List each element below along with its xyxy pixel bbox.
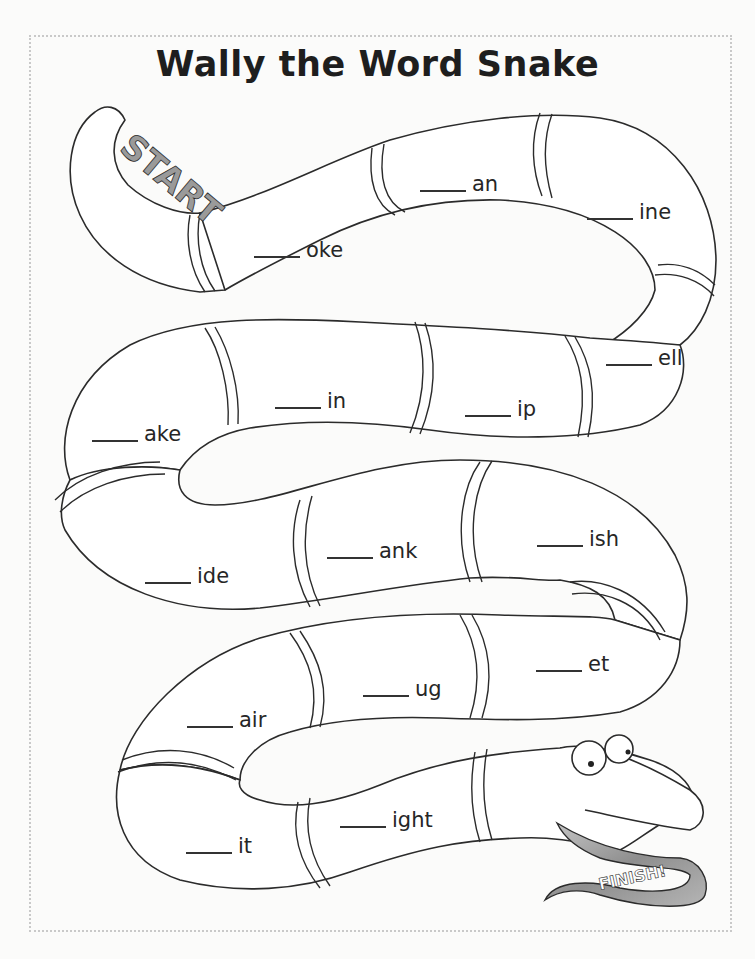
word-blank-an[interactable]: an xyxy=(420,172,498,196)
word-blank-ell[interactable]: ell xyxy=(606,346,683,370)
word-ending: air xyxy=(239,708,266,732)
word-blank-ug[interactable]: ug xyxy=(363,677,442,701)
blank-line[interactable] xyxy=(340,826,386,828)
blank-line[interactable] xyxy=(92,440,138,442)
word-ending: ine xyxy=(639,200,671,224)
word-blank-in[interactable]: in xyxy=(275,389,346,413)
word-ending: ug xyxy=(415,677,442,701)
word-blank-ide[interactable]: ide xyxy=(145,564,229,588)
left-eye xyxy=(572,741,606,775)
word-blank-et[interactable]: et xyxy=(536,652,609,676)
word-blank-it[interactable]: it xyxy=(186,834,252,858)
word-ending: et xyxy=(588,652,609,676)
blank-line[interactable] xyxy=(536,670,582,672)
blank-line[interactable] xyxy=(363,695,409,697)
word-ending: ight xyxy=(392,808,433,832)
word-blank-oke[interactable]: oke xyxy=(254,238,343,262)
right-eye xyxy=(605,735,633,763)
blank-line[interactable] xyxy=(275,407,321,409)
word-blank-air[interactable]: air xyxy=(187,708,266,732)
finish-letters: FINISH! xyxy=(597,861,668,894)
word-ending: an xyxy=(472,172,498,196)
blank-line[interactable] xyxy=(537,545,583,547)
blank-line[interactable] xyxy=(606,364,652,366)
word-ending: ell xyxy=(658,346,683,370)
word-blank-ake[interactable]: ake xyxy=(92,422,181,446)
blank-line[interactable] xyxy=(587,218,633,220)
blank-line[interactable] xyxy=(145,582,191,584)
blank-line[interactable] xyxy=(465,415,511,417)
word-ending: in xyxy=(327,389,346,413)
snake-body-row2 xyxy=(65,320,684,480)
word-ending: ake xyxy=(144,422,181,446)
word-blank-ine[interactable]: ine xyxy=(587,200,671,224)
snake-body-row1 xyxy=(200,115,716,345)
word-ending: ank xyxy=(379,539,417,563)
word-ending: ip xyxy=(517,397,536,421)
blank-line[interactable] xyxy=(254,256,300,258)
blank-line[interactable] xyxy=(186,852,232,854)
blank-line[interactable] xyxy=(327,557,373,559)
word-blank-ish[interactable]: ish xyxy=(537,527,619,551)
blank-line[interactable] xyxy=(420,190,466,192)
word-blank-ip[interactable]: ip xyxy=(465,397,536,421)
word-ending: it xyxy=(238,834,252,858)
word-blank-ight[interactable]: ight xyxy=(340,808,433,832)
blank-line[interactable] xyxy=(187,726,233,728)
word-ending: ide xyxy=(197,564,229,588)
word-ending: ish xyxy=(589,527,619,551)
word-ending: oke xyxy=(306,238,343,262)
word-blank-ank[interactable]: ank xyxy=(327,539,417,563)
